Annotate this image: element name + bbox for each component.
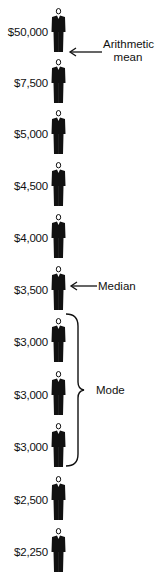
person-icon [51, 8, 66, 54]
person-icon [51, 162, 66, 208]
salary-label: $2,500 [14, 494, 48, 506]
mean-label-line1: Arithmetic [103, 38, 153, 51]
person-row: $4,500 [0, 162, 70, 208]
salary-label: $3,000 [14, 336, 48, 348]
person-icon [51, 110, 66, 156]
person-icon [51, 214, 66, 260]
person-icon [51, 266, 66, 312]
salary-label: $50,000 [8, 26, 48, 38]
person-icon [51, 59, 66, 105]
salary-label: $4,000 [14, 232, 48, 244]
person-row: $7,500 [0, 59, 70, 105]
person-icon [51, 476, 66, 522]
salary-label: $2,250 [14, 546, 48, 558]
salary-label: $7,500 [14, 77, 48, 89]
salary-label: $5,000 [14, 128, 48, 140]
salary-label: $4,500 [14, 180, 48, 192]
person-row: $5,000 [0, 110, 70, 156]
person-row: $3,000 [0, 423, 70, 469]
person-row: $3,000 [0, 318, 70, 364]
person-row: $3,500 [0, 266, 70, 312]
mean-label-line2: mean [103, 51, 153, 64]
mode-brace-icon [64, 312, 86, 468]
salary-label: $3,000 [14, 389, 48, 401]
mode-label: Mode [96, 384, 125, 397]
mean-arrow-icon [68, 47, 104, 57]
salary-label: $3,000 [14, 441, 48, 453]
person-row: $50,000 [0, 8, 70, 54]
mean-label: Arithmetic mean [103, 38, 153, 64]
median-label: Median [98, 280, 136, 293]
median-arrow-icon [69, 281, 97, 291]
salary-label: $3,500 [14, 284, 48, 296]
person-icon [51, 528, 66, 574]
person-row: $2,250 [0, 528, 70, 574]
person-row: $4,000 [0, 214, 70, 260]
person-row: $2,500 [0, 476, 70, 522]
person-row: $3,000 [0, 371, 70, 417]
